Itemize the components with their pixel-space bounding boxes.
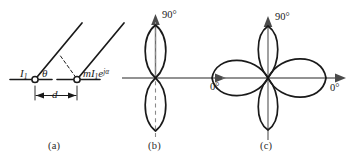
label-90-degrees-b: 90° — [162, 10, 177, 21]
source-element-right — [74, 76, 80, 82]
figure-root: I1 θ d mI1ejα (a) 90° 0° — [0, 0, 354, 167]
label-angle-theta: θ — [42, 68, 47, 79]
panel-a-array-geometry: I1 θ d mI1ejα (a) — [0, 0, 125, 167]
panel-b-polar-pattern: 90° 0° (b) — [122, 0, 232, 167]
panel-c-polar-pattern: 90° 0° (c) — [222, 0, 354, 167]
label-0-degrees-c: 0° — [330, 83, 339, 94]
source-element-left — [32, 76, 38, 82]
label-spacing-d: d — [52, 89, 58, 100]
label-source-right-current: mI1ejα — [83, 68, 109, 81]
label-0-degrees-b: 0° — [210, 82, 219, 93]
caption-panel-b: (b) — [148, 140, 161, 151]
caption-panel-a: (a) — [48, 140, 60, 151]
caption-panel-c: (c) — [260, 140, 272, 151]
panel-a-drawing — [0, 0, 125, 167]
label-source-left: I1 — [20, 68, 27, 81]
dim-arrowhead-right — [68, 92, 76, 98]
dim-arrowhead-left — [36, 92, 44, 98]
path-difference-dashed-line — [61, 56, 78, 79]
label-90-degrees-c: 90° — [275, 12, 290, 23]
